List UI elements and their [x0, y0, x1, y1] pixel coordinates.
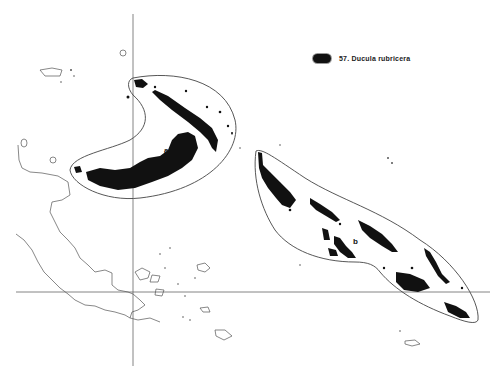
legend: 57. Ducula rubricera — [313, 54, 410, 63]
new-guinea-coast — [16, 50, 420, 346]
legend-label: 57. Ducula rubricera — [339, 55, 410, 62]
region-a-label: a — [164, 146, 168, 155]
region-b-range — [258, 152, 470, 318]
region-b-boundary — [255, 150, 478, 322]
range-map — [0, 0, 497, 379]
region-b-label: b — [353, 237, 358, 246]
legend-swatch-icon — [313, 54, 331, 63]
